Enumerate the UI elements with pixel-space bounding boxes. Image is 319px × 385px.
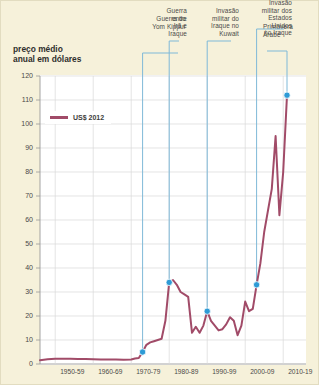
y-axis-tick-label: 90 [11,144,33,151]
legend: US$ 2012 [45,111,111,124]
x-axis-tick-label: 1990-99 [204,368,244,375]
y-axis-tick-label: 60 [11,216,33,223]
y-axis-tick-label: 100 [11,120,33,127]
x-axis-tick-label: 2000-09 [242,368,282,375]
y-axis-tick-label: 20 [11,312,33,319]
y-axis-tick-label: 40 [11,264,33,271]
y-axis-tick-label: 70 [11,192,33,199]
x-axis-tick-label: 1960-69 [90,368,130,375]
y-axis-tick-label: 30 [11,288,33,295]
legend-label-usd2012: US$ 2012 [73,114,104,121]
price-line-series [40,95,287,360]
x-axis-tick-label: 1980-89 [166,368,206,375]
y-axis-tick-label: 80 [11,168,33,175]
y-axis-tick-label: 110 [11,96,33,103]
y-axis-tick-label: 10 [11,336,33,343]
chart-canvas [1,1,319,385]
x-axis-tick-label: 1970-79 [128,368,168,375]
y-axis-tick-label: 0 [11,360,33,367]
legend-swatch-usd2012 [50,116,68,119]
y-axis-tick-label: 50 [11,240,33,247]
y-axis-tick-label: 120 [11,72,33,79]
chart-figure: preço médio anual em dólares Guerra doYo… [0,0,319,385]
x-axis-tick-label: 2010-19 [280,368,319,375]
x-axis-tick-label: 1950-59 [52,368,92,375]
annotation-leader-lines [143,29,287,352]
